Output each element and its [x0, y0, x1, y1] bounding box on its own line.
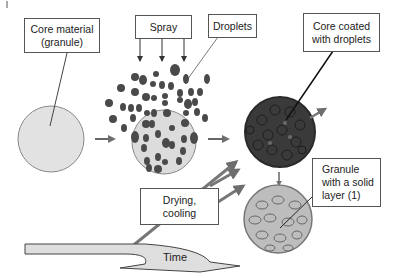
label-line: with droplets	[312, 33, 371, 46]
time-arrow	[25, 244, 240, 272]
time-label: Time	[163, 251, 187, 263]
core-granule	[18, 53, 84, 172]
label-line: (granule)	[41, 36, 83, 49]
arrow-out	[310, 109, 325, 118]
spray-arrows	[140, 39, 184, 61]
label-line: Granule	[322, 163, 359, 176]
label-line: Core coated	[313, 20, 370, 33]
label-spray: Spray	[135, 15, 192, 39]
label-line: Spray	[150, 21, 177, 34]
label-line: Drying,	[163, 194, 196, 207]
label-core-coated: Core coated with droplets	[303, 13, 380, 52]
label-line: Core material	[30, 23, 93, 36]
label-drying-cooling: Drying, cooling	[140, 188, 219, 225]
label-core-material: Core material (granule)	[24, 18, 100, 53]
label-droplets: Droplets	[208, 14, 257, 38]
label-line: with a solid	[322, 176, 374, 189]
solid-layer-granule	[244, 185, 313, 253]
label-line: cooling	[163, 207, 196, 220]
coated-core	[245, 51, 333, 167]
label-line: layer (1)	[322, 189, 361, 202]
label-line: Droplets	[213, 20, 252, 33]
label-granule-solid-layer: Granule with a solid layer (1)	[312, 158, 381, 207]
droplets-leader	[187, 37, 218, 80]
